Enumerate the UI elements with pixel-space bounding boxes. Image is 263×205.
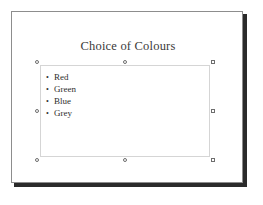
list-item[interactable]: • Red	[46, 71, 207, 83]
slide-editor-canvas: Choice of Colours • Red • Green • Blue	[0, 0, 263, 205]
bullet-point-icon: •	[46, 96, 54, 108]
bullet-point-icon: •	[46, 108, 54, 120]
slide-title[interactable]: Choice of Colours	[28, 39, 228, 53]
list-item[interactable]: • Green	[46, 83, 207, 95]
bullet-point-icon: •	[46, 84, 54, 96]
handle-top-center[interactable]	[123, 60, 127, 64]
list-item[interactable]: • Grey	[46, 107, 207, 119]
list-item[interactable]: • Blue	[46, 95, 207, 107]
handle-bottom-right[interactable]	[211, 158, 215, 162]
bullet-point-icon: •	[46, 72, 54, 84]
bullet-list: • Red • Green • Blue • Grey	[46, 71, 207, 119]
list-item-label: Red	[54, 71, 69, 83]
body-text-placeholder[interactable]: • Red • Green • Blue • Grey	[37, 62, 213, 160]
list-item-label: Grey	[54, 107, 72, 119]
handle-top-left[interactable]	[35, 60, 39, 64]
handle-middle-right[interactable]	[211, 109, 215, 113]
handle-bottom-center[interactable]	[123, 158, 127, 162]
handle-bottom-left[interactable]	[35, 158, 39, 162]
handle-top-right[interactable]	[211, 60, 215, 64]
handle-middle-left[interactable]	[35, 109, 39, 113]
slide-surface[interactable]: Choice of Colours • Red • Green • Blue	[11, 11, 243, 183]
list-item-label: Blue	[54, 95, 71, 107]
list-item-label: Green	[54, 83, 76, 95]
